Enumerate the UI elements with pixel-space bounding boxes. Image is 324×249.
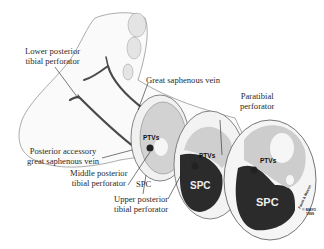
spc-label-3: SPC <box>256 196 279 208</box>
cropped-caption <box>60 240 260 249</box>
label-line: perforator <box>240 102 274 112</box>
label-paratibial-perforator: Paratibial perforator <box>240 92 274 111</box>
label-line: tibial perforator <box>25 57 80 67</box>
label-posterior-accessory-gsv: Posterior accessory great saphenous vein <box>27 147 99 166</box>
label-great-saphenous-vein: Great saphenous vein <box>146 76 220 86</box>
ptvs-label-2: PTVs <box>199 152 215 159</box>
ptvs-label-3: PTVs <box>260 157 276 164</box>
ptvs-label-1: PTVs <box>143 134 159 141</box>
label-line: tibial perforator <box>114 205 168 215</box>
cross-section-3 <box>224 120 316 240</box>
label-upper-posterior-tibial-perforator: Upper posterior tibial perforator <box>114 195 168 214</box>
spc-label-2: SPC <box>190 180 211 191</box>
label-middle-posterior-tibial-perforator: Middle posterior tibial perforator <box>70 169 128 188</box>
label-lower-posterior-tibial-perforator: Lower posterior tibial perforator <box>25 47 80 66</box>
label-spc: SPC <box>136 180 151 190</box>
label-line: tibial perforator <box>70 179 128 189</box>
label-line: great saphenous vein <box>27 157 99 167</box>
copyright-year: 1999 <box>306 212 314 216</box>
